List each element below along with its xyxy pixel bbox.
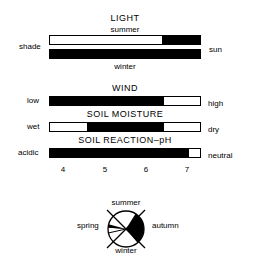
soil-moisture-wet-label: wet (27, 123, 39, 131)
season-spring-label: spring (77, 222, 99, 230)
wind-fill (50, 97, 164, 105)
ph-tick-5: 5 (103, 166, 107, 174)
season-autumn-label: autumn (152, 222, 179, 230)
season-summer-label: summer (112, 199, 141, 207)
soil-ph-neutral-label: neutral (208, 152, 232, 160)
ph-tick-6: 6 (144, 166, 148, 174)
ph-tick-4: 4 (61, 166, 65, 174)
soil-moisture-dry-label: dry (208, 126, 219, 134)
light-winter-label: winter (114, 63, 135, 71)
soil-ph-title: SOIL REACTION–pH (78, 136, 172, 145)
wind-high-label: high (208, 100, 223, 108)
light-summer-label: summer (111, 26, 140, 34)
light-winter-bar (49, 49, 201, 59)
soil-moisture-fill (87, 123, 164, 131)
light-summer-fill (162, 36, 200, 44)
light-sun-label: sun (209, 46, 222, 54)
wind-low-label: low (27, 97, 39, 105)
light-title: LIGHT (110, 14, 139, 23)
soil-ph-acidic-label: acidic (18, 149, 38, 157)
soil-moisture-bar (49, 122, 201, 132)
soil-moisture-title: SOIL MOISTURE (87, 110, 164, 119)
season-dial-icon (104, 207, 148, 251)
ph-tick-7: 7 (185, 166, 189, 174)
wind-bar (49, 96, 201, 106)
soil-ph-bar (49, 148, 201, 158)
light-shade-label: shade (19, 43, 41, 51)
light-summer-bar (49, 35, 201, 45)
wind-title: WIND (112, 84, 138, 93)
soil-ph-fill (50, 149, 189, 157)
